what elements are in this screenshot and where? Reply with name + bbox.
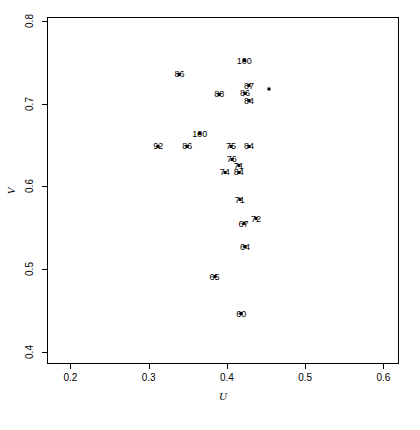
x-tick-label: 0.3 [142, 372, 156, 383]
data-point-71: 71 [235, 195, 245, 204]
data-point-72: 72 [251, 214, 261, 223]
data-point-60: 60 [236, 309, 246, 318]
data-point-84: 84 [244, 96, 254, 105]
point-label: 100 [192, 129, 207, 138]
point-label: 86 [182, 142, 192, 151]
x-tick-label: 0.2 [64, 372, 78, 383]
y-tick-label: 0.8 [24, 14, 35, 28]
point-label: 84 [244, 96, 254, 105]
x-tick [227, 364, 228, 369]
data-point-86: 86 [182, 142, 192, 151]
plot-area: 1008687888684100928675847671748471726764… [47, 17, 399, 364]
data-point-92: 92 [153, 142, 163, 151]
point-label: 88 [214, 90, 224, 99]
point-label: 100 [237, 56, 252, 65]
point-label: 71 [235, 195, 245, 204]
x-tick-label: 0.6 [376, 372, 390, 383]
point-label: 74 [220, 168, 230, 177]
y-tick-label: 0.7 [24, 97, 35, 111]
x-tick [383, 364, 384, 369]
data-point-64: 64 [240, 242, 250, 251]
scatter-chart: 1008687888684100928675847671748471726764… [0, 0, 420, 430]
data-point-88: 88 [214, 90, 224, 99]
point-label: 60 [236, 309, 246, 318]
y-tick-label: 0.5 [24, 262, 35, 276]
x-tick-label: 0.5 [298, 372, 312, 383]
point-label: 84 [244, 142, 254, 151]
y-tick [42, 104, 47, 105]
point-label: 86 [174, 70, 184, 79]
data-point-84: 84 [234, 168, 244, 177]
data-point-86: 86 [174, 70, 184, 79]
point-label: 72 [251, 214, 261, 223]
data-point-100: 100 [237, 56, 252, 65]
point-label: 75 [226, 142, 236, 151]
x-tick [70, 364, 71, 369]
y-tick [42, 352, 47, 353]
point-label: 65 [210, 272, 220, 281]
data-point-65: 65 [210, 272, 220, 281]
data-point-67: 67 [239, 219, 249, 228]
data-point-84: 84 [244, 142, 254, 151]
data-points-layer: 1008687888684100928675847671748471726764… [48, 18, 398, 363]
x-axis-title: U [219, 390, 227, 402]
x-tick [149, 364, 150, 369]
point-label: 84 [234, 168, 244, 177]
y-tick [42, 21, 47, 22]
point-label: 67 [239, 219, 249, 228]
point-label: 64 [240, 242, 250, 251]
point-marker [267, 88, 270, 91]
x-tick-label: 0.4 [220, 372, 234, 383]
y-tick [42, 186, 47, 187]
y-axis-title: V [5, 187, 17, 194]
data-point-75: 75 [226, 142, 236, 151]
y-tick-label: 0.6 [24, 179, 35, 193]
y-tick-label: 0.4 [24, 345, 35, 359]
data-point-100: 100 [192, 129, 207, 138]
point-label: 92 [153, 142, 163, 151]
x-tick [305, 364, 306, 369]
y-tick [42, 269, 47, 270]
data-point-74: 74 [220, 168, 230, 177]
